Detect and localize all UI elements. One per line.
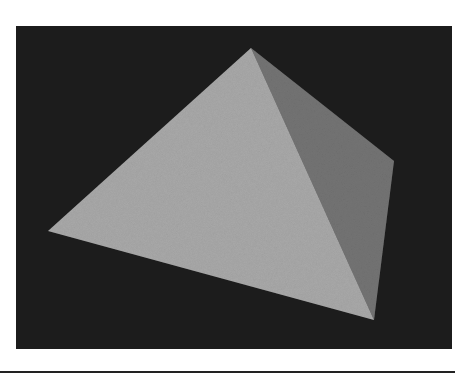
bottom-rule [0, 371, 455, 373]
pyramid-render [16, 26, 452, 349]
pyramid-photo [16, 26, 452, 349]
